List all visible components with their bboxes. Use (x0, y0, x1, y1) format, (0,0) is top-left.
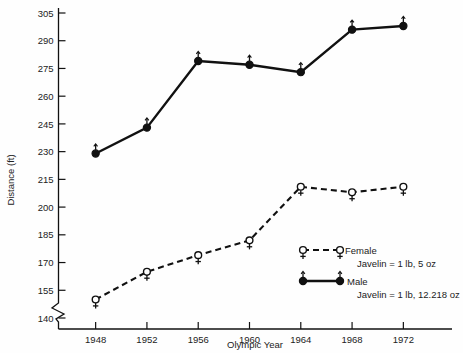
data-point-male (143, 118, 150, 131)
marker-filled-circle (297, 69, 304, 76)
x-axis-title: Olympic Year (227, 339, 283, 350)
marker-open-circle (92, 296, 99, 303)
marker-open-circle (246, 237, 253, 244)
y-tick-label: 245 (38, 119, 54, 130)
data-point-female (195, 252, 202, 264)
y-tick-label: 185 (38, 229, 54, 240)
y-tick-label: 290 (38, 35, 54, 46)
legend-entry-female: Female Javelin = 1 lb, 5 oz (300, 245, 437, 269)
chart-canvas: 140155170185200215230245260275290305 194… (0, 0, 463, 353)
y-tick-label: 260 (38, 91, 54, 102)
y-tick-label: 305 (38, 8, 54, 19)
marker-filled-circle (400, 22, 407, 29)
data-point-male (297, 63, 304, 76)
data-point-female (349, 189, 356, 201)
data-point-male (400, 16, 407, 29)
marker-filled-circle (348, 26, 355, 33)
legend-male-label: Male (347, 276, 368, 287)
series-line-male (96, 26, 404, 154)
data-point-male (348, 20, 355, 33)
marker-filled-circle (92, 150, 99, 157)
y-axis-break-zigzag (52, 297, 64, 329)
legend-male-sublabel: Javelin = 1 lb, 12.218 oz (357, 289, 460, 300)
marker-open-circle (195, 252, 202, 259)
y-tick-label: 200 (38, 202, 54, 213)
javelin-distance-chart: 140155170185200215230245260275290305 194… (0, 0, 463, 353)
legend-female-marker-right (337, 247, 344, 259)
axis-lines (52, 8, 452, 329)
data-point-male (246, 55, 253, 68)
y-tick-label: 140 (38, 313, 54, 324)
data-point-female (92, 296, 99, 308)
chart-legend: Female Javelin = 1 lb, 5 oz Male Javelin… (299, 245, 460, 300)
data-point-female (297, 183, 304, 195)
legend-female-sublabel: Javelin = 1 lb, 5 oz (357, 258, 436, 269)
marker-open-circle (400, 183, 407, 190)
y-axis-title: Distance (ft) (5, 154, 16, 205)
data-point-male (195, 51, 202, 64)
x-tick-label: 1968 (342, 334, 363, 345)
y-axis-ticks: 140155170185200215230245260275290305 (38, 8, 66, 324)
data-point-male (92, 144, 99, 157)
y-tick-label: 230 (38, 146, 54, 157)
legend-entry-male: Male Javelin = 1 lb, 12.218 oz (299, 271, 460, 299)
marker-filled-circle (246, 61, 253, 68)
marker-open-circle (297, 183, 304, 190)
legend-male-marker-right (336, 271, 343, 284)
legend-female-label: Female (345, 245, 377, 256)
data-point-female (246, 237, 253, 249)
data-point-female (144, 268, 151, 280)
x-tick-label: 1956 (188, 334, 209, 345)
marker-open-circle (349, 189, 356, 196)
marker-filled-circle (195, 57, 202, 64)
data-point-female (400, 183, 407, 195)
marker-open-circle (144, 268, 151, 275)
x-tick-label: 1964 (290, 334, 311, 345)
series-male (92, 16, 407, 157)
marker-filled-circle (143, 124, 150, 131)
legend-female-marker-left (300, 247, 307, 259)
y-tick-label: 155 (38, 285, 54, 296)
y-tick-label: 275 (38, 63, 54, 74)
x-tick-label: 1972 (393, 334, 414, 345)
y-tick-label: 170 (38, 257, 54, 268)
x-tick-label: 1952 (136, 334, 157, 345)
legend-male-marker-left (299, 271, 306, 284)
x-tick-label: 1948 (85, 334, 106, 345)
y-tick-label: 215 (38, 174, 54, 185)
